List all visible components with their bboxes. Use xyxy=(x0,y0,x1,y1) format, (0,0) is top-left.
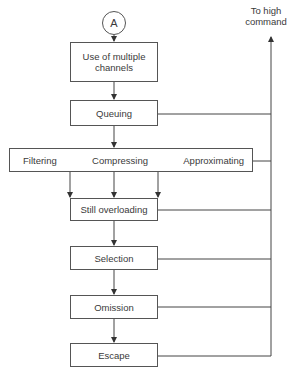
node-omission: Omission xyxy=(70,295,158,319)
node-selection: Selection xyxy=(70,246,158,270)
node-multiple-channels: Use of multiple channels xyxy=(70,42,158,82)
node-approximating: Approximating xyxy=(183,155,244,166)
node-still-overloading: Still overloading xyxy=(70,198,158,221)
node-escape: Escape xyxy=(70,343,158,367)
to-high-command-label: To high command xyxy=(240,5,292,27)
node-queuing: Queuing xyxy=(70,100,158,126)
node-filter-compress-approximate: Filtering Compressing Approximating xyxy=(9,148,253,172)
node-filtering: Filtering xyxy=(23,155,57,166)
start-connector-a: A xyxy=(102,11,126,35)
node-compressing: Compressing xyxy=(92,155,148,166)
